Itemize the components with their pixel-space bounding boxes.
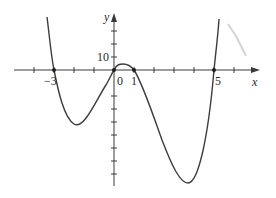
- tick-label-10: 10: [97, 51, 109, 63]
- scan-smudge: [228, 24, 246, 56]
- point-x-1: [132, 68, 136, 72]
- y-axis-label: y: [104, 11, 109, 23]
- x-axis-label: x: [252, 76, 257, 88]
- y-axis: [111, 20, 117, 186]
- tick-label-1: 1: [131, 75, 137, 87]
- tick-label-0: 0: [117, 75, 123, 87]
- point-x-5: [212, 68, 216, 72]
- tick-label-5: 5: [215, 75, 221, 87]
- function-curve: [47, 17, 219, 183]
- function-graph: [0, 0, 276, 198]
- x-axis-arrow-icon: [251, 67, 260, 73]
- tick-label-neg3: −3: [44, 75, 57, 87]
- point-x-neg3: [52, 68, 56, 72]
- y-axis-arrow-icon: [111, 13, 117, 22]
- point-x-0: [112, 68, 116, 72]
